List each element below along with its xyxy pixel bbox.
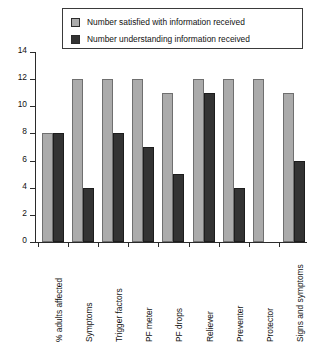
y-tick-label: 0 xyxy=(22,236,27,244)
y-tick-12: 12 xyxy=(30,79,35,80)
x-axis-label: Signs and symptoms xyxy=(294,246,306,342)
bar-satisfied xyxy=(72,79,83,242)
x-tick xyxy=(128,242,129,247)
x-axis-line xyxy=(35,242,307,243)
x-tick xyxy=(98,242,99,247)
bar-chart: Number satisfied with information receiv… xyxy=(0,0,317,346)
bar-satisfied xyxy=(162,93,173,242)
x-tick xyxy=(279,242,280,247)
x-axis-label: PF meter xyxy=(143,246,155,342)
bar-satisfied xyxy=(132,79,143,242)
x-axis-labels: % adults affectedSymptomsTrigger factors… xyxy=(36,248,307,344)
bar-satisfied xyxy=(283,93,294,242)
x-axis-label: Trigger factors xyxy=(113,246,125,342)
bar-understanding xyxy=(113,133,124,242)
bar-understanding xyxy=(204,93,215,242)
x-tick xyxy=(249,242,250,247)
y-tick-label: 4 xyxy=(22,182,27,190)
bar-satisfied xyxy=(102,79,113,242)
y-tick-label: 8 xyxy=(22,127,27,135)
bar-understanding xyxy=(173,174,184,242)
y-tick-label: 12 xyxy=(18,73,27,81)
x-tick xyxy=(189,242,190,247)
legend-swatch-satisfied xyxy=(71,18,80,27)
x-axis-label: Protector xyxy=(264,246,276,342)
bar-satisfied xyxy=(42,133,53,242)
legend-item-satisfied: Number satisfied with information receiv… xyxy=(69,14,296,30)
y-tick-label: 10 xyxy=(18,100,27,108)
x-tick xyxy=(38,242,39,247)
x-axis-label: Reliever xyxy=(204,246,216,342)
chart-legend: Number satisfied with information receiv… xyxy=(62,8,303,49)
bar-satisfied xyxy=(253,79,264,242)
x-axis-label: Preventer xyxy=(234,246,246,342)
x-tick xyxy=(68,242,69,247)
x-tick xyxy=(219,242,220,247)
bar-group xyxy=(72,52,94,242)
x-axis-label: Symptoms xyxy=(83,246,95,342)
y-tick-14: 14 xyxy=(30,52,35,53)
bar-group xyxy=(193,52,215,242)
bar-series-container xyxy=(36,52,307,242)
y-tick-0: 0 xyxy=(30,242,35,243)
bar-group xyxy=(283,52,305,242)
legend-label-understanding: Number understanding information receive… xyxy=(87,35,250,43)
bar-understanding xyxy=(294,161,305,242)
bar-group xyxy=(253,52,275,242)
bar-satisfied xyxy=(223,79,234,242)
bar-understanding xyxy=(83,188,94,242)
bar-understanding xyxy=(53,133,64,242)
x-axis-label: % adults affected xyxy=(53,246,65,342)
y-tick-label: 14 xyxy=(18,46,27,54)
bar-understanding xyxy=(143,147,154,242)
bar-group xyxy=(132,52,154,242)
y-tick-6: 6 xyxy=(30,161,35,162)
legend-label-satisfied: Number satisfied with information receiv… xyxy=(87,18,245,26)
legend-item-understanding: Number understanding information receive… xyxy=(69,31,296,47)
y-tick-10: 10 xyxy=(30,106,35,107)
y-tick-2: 2 xyxy=(30,215,35,216)
y-tick-4: 4 xyxy=(30,188,35,189)
bar-understanding xyxy=(234,188,245,242)
plot-area: 02468101214 xyxy=(35,52,307,242)
bar-group xyxy=(223,52,245,242)
y-tick-label: 2 xyxy=(22,209,27,217)
x-tick xyxy=(158,242,159,247)
legend-swatch-understanding xyxy=(71,35,80,44)
x-axis-label: PF drops xyxy=(173,246,185,342)
y-tick-8: 8 xyxy=(30,133,35,134)
y-tick-label: 6 xyxy=(22,155,27,163)
bar-group xyxy=(102,52,124,242)
bar-group xyxy=(162,52,184,242)
bar-group xyxy=(42,52,64,242)
bar-satisfied xyxy=(193,79,204,242)
